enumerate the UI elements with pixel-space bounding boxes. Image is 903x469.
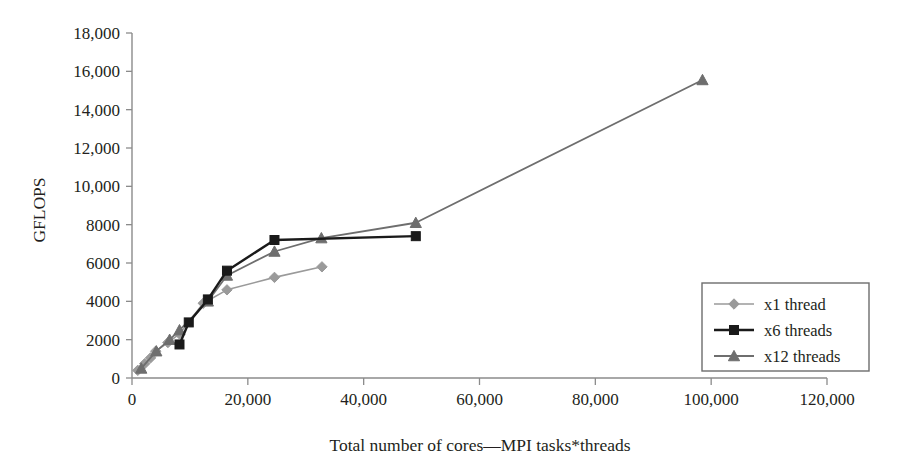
gflops-scaling-chart: 0200040006000800010,00012,00014,00016,00… [0, 0, 903, 469]
data-point-marker [175, 340, 184, 349]
legend: x1 threadx6 threadsx12 threads [702, 283, 869, 371]
y-axis-ticks [126, 33, 132, 378]
data-point-marker [203, 295, 212, 304]
data-point-marker [184, 318, 193, 327]
y-tick-label: 8000 [86, 216, 120, 235]
x-axis-tick-labels: 020,00040,00060,00080,000100,000120,000 [128, 390, 855, 409]
data-point-marker [697, 74, 708, 84]
series-line [141, 80, 702, 368]
data-point-marker [270, 236, 279, 245]
y-tick-label: 18,000 [73, 24, 120, 43]
data-point-marker [317, 262, 327, 272]
y-tick-label: 10,000 [73, 177, 120, 196]
legend-items: x1 threadx6 threadsx12 threads [714, 295, 841, 366]
y-tick-label: 12,000 [73, 139, 120, 158]
y-tick-label: 4000 [86, 292, 120, 311]
legend-marker-square [730, 326, 739, 335]
x-axis-ticks [132, 378, 827, 385]
x-tick-label: 0 [128, 390, 137, 409]
data-point-marker [269, 272, 279, 282]
series-line [179, 236, 415, 344]
series-line [138, 267, 322, 371]
y-tick-label: 6000 [86, 254, 120, 273]
x-tick-label: 60,000 [456, 390, 503, 409]
y-tick-label: 14,000 [73, 101, 120, 120]
data-point-marker [411, 232, 420, 241]
x-tick-label: 20,000 [224, 390, 271, 409]
data-series-layer [133, 74, 708, 375]
y-axis-tick-labels: 0200040006000800010,00012,00014,00016,00… [73, 24, 120, 388]
y-tick-label: 16,000 [73, 62, 120, 81]
series-x6-threads [175, 232, 420, 349]
x-tick-label: 120,000 [799, 390, 854, 409]
x-tick-label: 40,000 [340, 390, 387, 409]
data-point-marker [222, 266, 231, 275]
data-point-marker [222, 285, 232, 295]
series-x12-threads [136, 74, 708, 373]
legend-label: x6 threads [764, 321, 832, 340]
chart-container: 0200040006000800010,00012,00014,00016,00… [0, 0, 903, 469]
legend-label: x1 thread [764, 295, 827, 314]
data-point-marker [410, 217, 421, 227]
y-axis-title: GFLOPS [29, 177, 49, 242]
y-tick-label: 0 [112, 369, 121, 388]
legend-label: x12 threads [764, 347, 841, 366]
x-axis-title: Total number of cores—MPI tasks*threads [329, 435, 630, 455]
x-tick-label: 100,000 [684, 390, 739, 409]
x-tick-label: 80,000 [572, 390, 619, 409]
y-tick-label: 2000 [86, 331, 120, 350]
